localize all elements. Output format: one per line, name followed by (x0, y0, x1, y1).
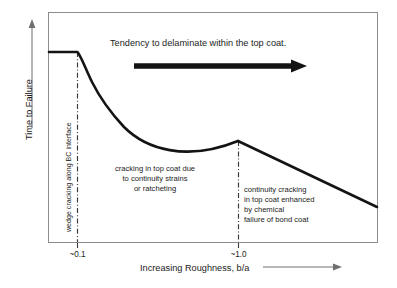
regime-right-line-3: by chemical (244, 205, 284, 214)
tick-label-0.1: ~0.1 (69, 250, 86, 259)
regime-right-line-2: in top coat enhanced (244, 195, 315, 204)
regime-left-label: wedge cracking along BC interface (65, 122, 73, 233)
regime-right-line-4: failure of bond coat (244, 215, 309, 224)
regime-right-line-1: continuity cracking (244, 185, 306, 194)
regime-middle-line-1: cracking in top coat due (115, 164, 195, 173)
y-axis-title: Time to Failure (24, 79, 34, 140)
banner-text: Tendency to delaminate within the top co… (110, 38, 286, 48)
x-axis-title: Increasing Roughness, b/a (140, 263, 250, 273)
figure-container: Time to Failure Increasing Roughness, b/… (0, 0, 397, 288)
time-to-failure-figure: Time to Failure Increasing Roughness, b/… (0, 0, 397, 288)
tick-label-1.0: ~1.0 (230, 250, 247, 259)
regime-middle-line-3: or ratcheting (134, 184, 176, 193)
regime-middle-line-2: to continuity strains (123, 174, 188, 183)
